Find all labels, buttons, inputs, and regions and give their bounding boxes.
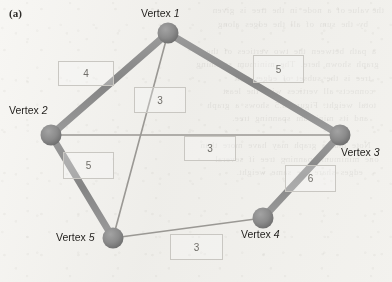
edge-weight-v4-v5: 3 bbox=[170, 234, 223, 260]
edge-weight-v3-v4: 6 bbox=[285, 165, 336, 192]
edge-weight-v2-v3: 3 bbox=[184, 136, 236, 161]
graph-edge-v1-v3 bbox=[168, 33, 340, 135]
graph-node-v3 bbox=[330, 125, 351, 146]
edge-weight-v1-v5: 3 bbox=[134, 87, 186, 113]
graph-node-v4 bbox=[253, 208, 274, 229]
vertex-label-v4: Vertex 4 bbox=[241, 228, 280, 240]
vertex-label-v2: Vertex 2 bbox=[9, 104, 48, 116]
graph-node-v2 bbox=[41, 125, 62, 146]
vertex-label-v1: Vertex 1 bbox=[141, 7, 180, 19]
graph-node-v5 bbox=[103, 228, 124, 249]
edge-weight-v2-v5: 5 bbox=[63, 152, 114, 179]
edge-weight-v1-v3: 5 bbox=[253, 55, 304, 83]
vertex-label-v5: Vertex 5 bbox=[56, 231, 95, 243]
graph-node-v1 bbox=[158, 23, 179, 44]
vertex-label-v3: Vertex 3 bbox=[341, 146, 380, 158]
graph-edge-v2-v5 bbox=[51, 135, 113, 238]
panel-label: (a) bbox=[9, 7, 22, 19]
edge-weight-v1-v2: 4 bbox=[58, 61, 114, 86]
figure-canvas: the value of a node in the tree is given… bbox=[0, 0, 392, 282]
